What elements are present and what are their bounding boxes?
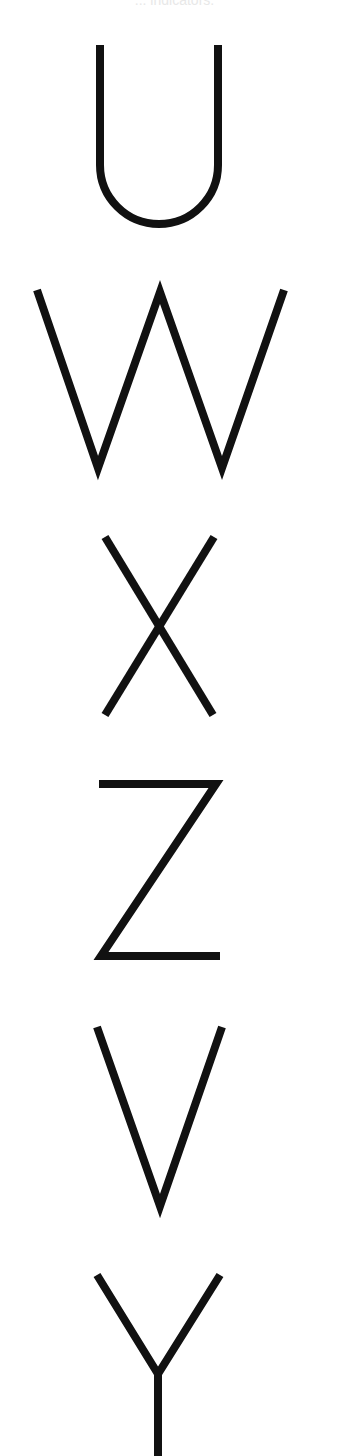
letter-u <box>100 45 218 224</box>
letter-w <box>37 290 284 468</box>
letter-x <box>105 537 214 715</box>
letter-z <box>99 784 220 956</box>
letter-column <box>0 0 349 1456</box>
letter-y <box>97 1275 220 1456</box>
letter-v <box>97 1027 222 1206</box>
